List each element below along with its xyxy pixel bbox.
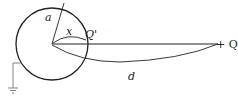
grounded-sphere-image-charge-diagram: a x Q' + Q d: [0, 0, 238, 98]
ground-wire: [13, 63, 22, 88]
label-charge: + Q: [216, 38, 238, 51]
label-radius: a: [45, 11, 52, 24]
d-arc: [52, 44, 218, 62]
ground-icon: [8, 88, 18, 93]
label-image-charge: Q': [85, 28, 97, 41]
label-distance: d: [128, 70, 135, 83]
label-x: x: [66, 25, 73, 38]
